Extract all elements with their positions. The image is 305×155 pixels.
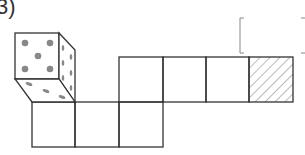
answer-bracket — [240, 18, 305, 53]
cube-net-diagram — [0, 0, 305, 155]
hatched-square — [249, 57, 293, 102]
